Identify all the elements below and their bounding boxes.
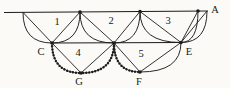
- label-A: A: [211, 4, 219, 15]
- chord-P4-E: [181, 11, 207, 43]
- label-region-5: 5: [138, 48, 143, 59]
- chord-P0-C: [23, 12, 52, 43]
- chord-T2-D: [114, 12, 140, 44]
- chord-D-F: [114, 43, 140, 72]
- scanned-figure: A12345CEGF: [0, 0, 230, 88]
- chord-T2-E: [140, 12, 181, 43]
- chord-F-E: [140, 43, 181, 73]
- node-dot-T1: [78, 10, 82, 14]
- truss-arc-diagram: A12345CEGF: [0, 0, 230, 88]
- label-F: F: [136, 76, 142, 87]
- node-dot-G: [79, 71, 83, 75]
- node-dot-E: [179, 41, 183, 45]
- label-region-3: 3: [165, 15, 170, 26]
- label-E: E: [186, 46, 192, 57]
- node-dot-T3: [196, 9, 200, 13]
- chord-G-D: [81, 43, 114, 73]
- top-line: [4, 11, 208, 13]
- label-region-4: 4: [75, 47, 81, 58]
- label-region-2: 2: [108, 15, 113, 26]
- node-dot-F: [138, 70, 142, 74]
- node-dot-D: [112, 41, 116, 45]
- label-G: G: [75, 76, 83, 87]
- node-dot-C: [50, 41, 54, 45]
- chord-T3-E: [181, 11, 198, 43]
- label-region-1: 1: [54, 16, 59, 27]
- node-dot-T2: [138, 10, 142, 14]
- label-C: C: [37, 46, 44, 57]
